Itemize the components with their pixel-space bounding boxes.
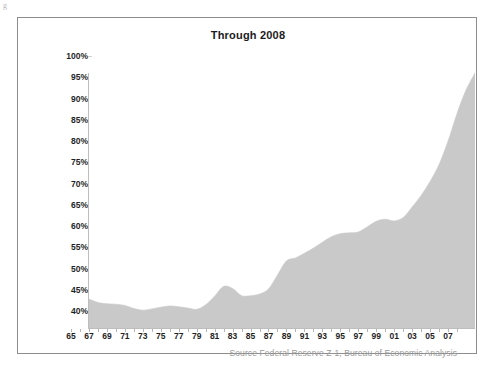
y-axis-tick-mark xyxy=(88,56,92,57)
x-axis-tick-label: 03 xyxy=(407,331,416,341)
y-axis-tick-label: 55% xyxy=(42,242,88,252)
x-axis-minor-tick xyxy=(349,329,350,332)
y-axis-tick-label: 95% xyxy=(42,72,88,82)
y-axis-tick-label: 70% xyxy=(42,179,88,189)
x-axis-tick-label: 89 xyxy=(282,331,291,341)
x-axis-tick-label: 97 xyxy=(354,331,363,341)
x-axis-minor-tick xyxy=(403,329,404,332)
x-axis-line xyxy=(88,328,475,329)
y-axis-tick-label: 45% xyxy=(42,285,88,295)
x-axis-minor-tick xyxy=(277,329,278,332)
chart-screenshot-root: g Through 2008 100%95%90%85%80%75%70%65%… xyxy=(0,0,502,378)
chart-figure-frame: Through 2008 100%95%90%85%80%75%70%65%60… xyxy=(17,17,477,354)
x-axis-minor-tick xyxy=(116,329,117,332)
x-axis-minor-tick xyxy=(242,329,243,332)
x-axis-minor-tick xyxy=(134,329,135,332)
y-axis-tick-label: 75% xyxy=(42,157,88,167)
x-axis-tick-label: 07 xyxy=(443,331,452,341)
x-axis-tick-label: 71 xyxy=(120,331,129,341)
x-axis-tick-label: 01 xyxy=(389,331,398,341)
y-axis-labels: 100%95%90%85%80%75%70%65%60%55%50%45%40% xyxy=(35,18,88,353)
y-axis-tick-label: 90% xyxy=(42,94,88,104)
x-axis-minor-tick xyxy=(260,329,261,332)
area-fill xyxy=(89,73,475,328)
x-axis-tick-label: 77 xyxy=(174,331,183,341)
y-axis-tick-label: 80% xyxy=(42,136,88,146)
y-axis-tick-label: 60% xyxy=(42,221,88,231)
y-axis-tick-label: 65% xyxy=(42,200,88,210)
page-corner-artifact: g xyxy=(3,1,17,11)
y-axis-tick-label: 40% xyxy=(42,306,88,316)
x-axis-minor-tick xyxy=(385,329,386,332)
x-axis-minor-tick xyxy=(224,329,225,332)
x-axis-minor-tick xyxy=(331,329,332,332)
x-axis-tick-label: 73 xyxy=(138,331,147,341)
x-axis-minor-tick xyxy=(313,329,314,332)
x-axis-minor-tick xyxy=(170,329,171,332)
y-axis-tick-label: 100% xyxy=(42,51,88,61)
x-axis-tick-label: 79 xyxy=(192,331,201,341)
x-axis-tick-label: 85 xyxy=(246,331,255,341)
source-note: Source Federal Reserve Z-1, Bureau of Ec… xyxy=(229,348,457,358)
x-axis-tick-label: 05 xyxy=(425,331,434,341)
x-axis-minor-tick xyxy=(457,329,458,332)
x-axis-tick-label: 81 xyxy=(210,331,219,341)
x-axis-minor-tick xyxy=(295,329,296,332)
x-axis-tick-label: 95 xyxy=(336,331,345,341)
x-axis-minor-tick xyxy=(421,329,422,332)
x-axis-minor-tick xyxy=(206,329,207,332)
x-axis-minor-tick xyxy=(152,329,153,332)
x-axis-tick-label: 83 xyxy=(228,331,237,341)
x-axis-minor-tick xyxy=(367,329,368,332)
plot-area xyxy=(88,73,475,328)
x-axis-tick-label: 99 xyxy=(371,331,380,341)
y-axis-tick-label: 50% xyxy=(42,264,88,274)
x-axis-tick-label: 67 xyxy=(84,331,93,341)
x-axis-tick-label: 69 xyxy=(102,331,111,341)
x-axis-tick-label: 91 xyxy=(300,331,309,341)
x-axis-minor-tick xyxy=(98,329,99,332)
x-axis-tick-label: 87 xyxy=(264,331,273,341)
x-axis-minor-tick xyxy=(439,329,440,332)
y-axis-tick-label: 85% xyxy=(42,115,88,125)
x-axis-minor-tick xyxy=(188,329,189,332)
area-series xyxy=(89,73,475,328)
x-axis-tick-label: 75 xyxy=(156,331,165,341)
x-axis-tick-label: 65 xyxy=(66,331,75,341)
x-axis-tick-label: 93 xyxy=(318,331,327,341)
x-axis-minor-tick xyxy=(80,329,81,332)
